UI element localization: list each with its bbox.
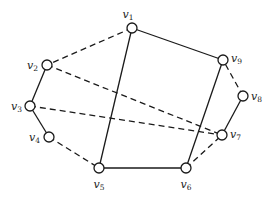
- node-v7: [217, 130, 227, 140]
- label-v8: v8: [251, 90, 262, 104]
- node-v9: [218, 55, 228, 65]
- edge-v3-v7: [30, 106, 222, 135]
- edge-v1-v9: [132, 28, 223, 60]
- edge-v2-v7: [47, 65, 222, 135]
- label-v4: v4: [29, 131, 40, 145]
- label-v9: v9: [231, 52, 242, 66]
- edge-v1-v5: [99, 28, 132, 168]
- edges: [30, 28, 243, 168]
- edge-v4-v5: [49, 137, 99, 168]
- label-v7: v7: [230, 128, 241, 142]
- labels: v1v2v3v4v5v6v7v8v9: [11, 8, 262, 192]
- label-v5: v5: [94, 178, 105, 192]
- label-v1: v1: [123, 8, 134, 22]
- node-v1: [127, 23, 137, 33]
- label-v6: v6: [181, 178, 192, 192]
- label-v3: v3: [11, 100, 22, 114]
- node-v2: [42, 60, 52, 70]
- edge-v1-v2: [47, 28, 132, 65]
- node-v3: [25, 101, 35, 111]
- nodes: [25, 23, 248, 173]
- node-v8: [238, 91, 248, 101]
- graph-diagram: v1v2v3v4v5v6v7v8v9: [0, 0, 274, 197]
- label-v2: v2: [27, 59, 38, 73]
- node-v4: [44, 132, 54, 142]
- node-v6: [181, 163, 191, 173]
- node-v5: [94, 163, 104, 173]
